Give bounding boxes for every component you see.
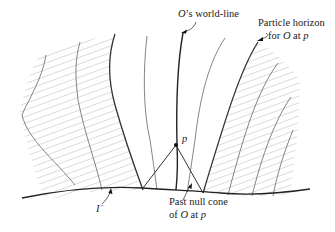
particle-horizon-pointer-head <box>257 37 263 41</box>
particle-horizon-label-line2: for O at p <box>268 30 309 41</box>
spacetime-diagram: p O’s world-line Particle horizon for O … <box>0 0 335 232</box>
null-cone-left-edge <box>143 145 176 188</box>
event-p-label: p <box>181 133 187 144</box>
particle-horizon-label-line1: Particle horizon <box>258 17 326 28</box>
null-cone-label-line2: of O at p <box>169 209 206 220</box>
event-p-dot <box>174 143 178 147</box>
scri-minus-label: I− <box>95 202 105 214</box>
worldline-observer-O <box>176 33 183 190</box>
worldline-label: O’s world-line <box>178 8 239 19</box>
null-cone-label-line1: Past null cone <box>169 196 228 207</box>
worldline-pointer-head <box>181 30 187 34</box>
worldline-middle-1 <box>144 36 157 190</box>
